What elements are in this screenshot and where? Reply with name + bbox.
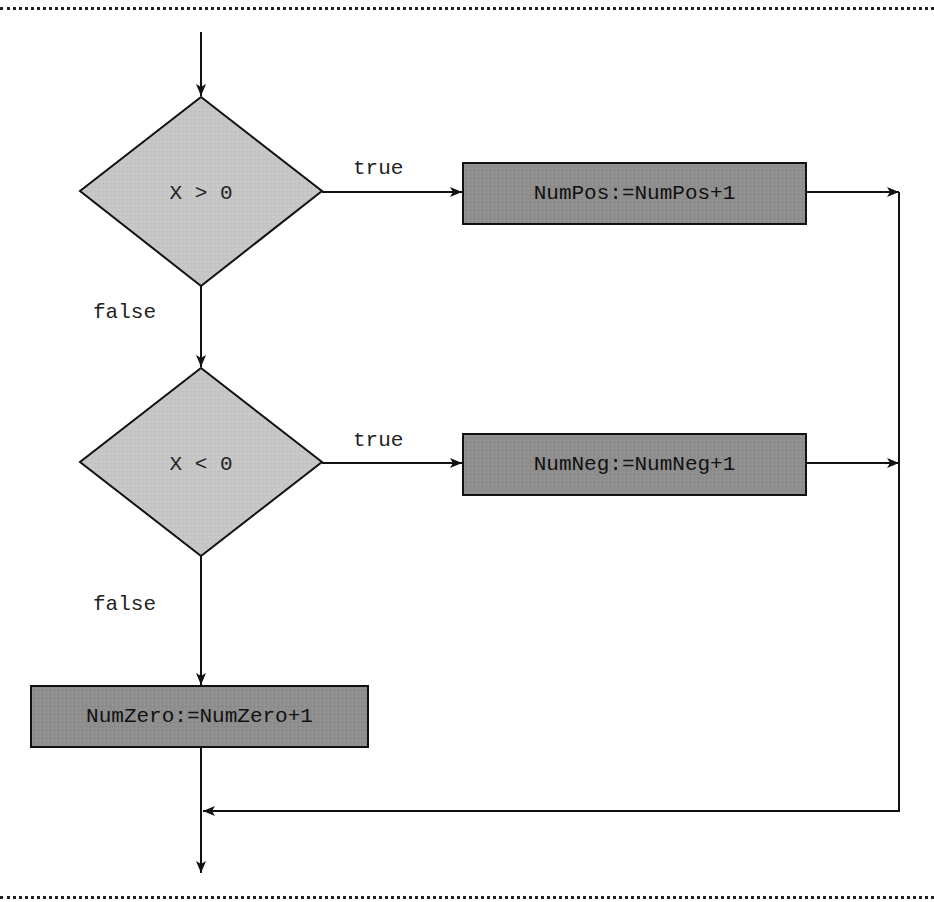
edge-label-d2-true: true <box>353 429 403 452</box>
decision-label-2: X < 0 <box>169 453 232 476</box>
process-label-numneg: NumNeg:=NumNeg+1 <box>534 453 736 476</box>
process-box-numpos: NumPos:=NumPos+1 <box>463 163 806 224</box>
decision-label-1: X > 0 <box>169 182 232 205</box>
process-label-numzero: NumZero:=NumZero+1 <box>86 705 313 728</box>
edge-label-d1-false: false <box>93 301 156 324</box>
process-label-numpos: NumPos:=NumPos+1 <box>534 182 736 205</box>
edge-label-d1-true: true <box>353 157 403 180</box>
edge-label-d2-false: false <box>93 593 156 616</box>
process-box-numneg: NumNeg:=NumNeg+1 <box>463 434 806 495</box>
process-box-numzero: NumZero:=NumZero+1 <box>31 686 368 747</box>
